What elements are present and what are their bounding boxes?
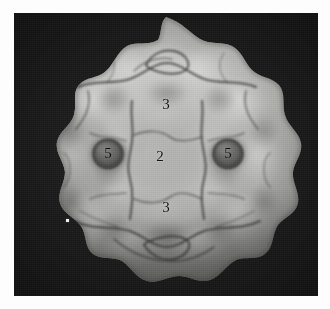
figure-root: 3 2 5 5 3: [0, 0, 330, 309]
label-five-fold-right: 5: [219, 146, 237, 161]
label-three-fold-top: 3: [157, 97, 175, 112]
label-two-fold-center: 2: [151, 149, 169, 164]
label-five-fold-left: 5: [99, 146, 117, 161]
fiducial-marker: [65, 218, 70, 223]
label-three-fold-bottom: 3: [157, 200, 175, 215]
micrograph-panel: 3 2 5 5 3: [14, 13, 318, 296]
